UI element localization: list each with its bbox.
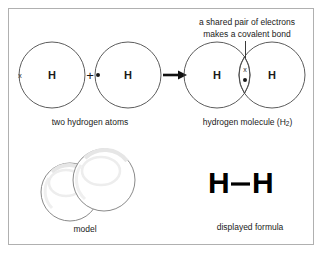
reactant-atom-right-electron-dot-icon: [96, 73, 100, 77]
displayed-formula-caption: displayed formula: [190, 222, 310, 233]
shared-pair-electron-cross-icon: x: [241, 66, 249, 73]
plus-sign: +: [84, 69, 96, 82]
reactants-caption: two hydrogen atoms: [20, 117, 160, 128]
displayed-formula-left-atom: H: [208, 168, 231, 198]
reactant-atom-right-label: H: [118, 70, 138, 81]
chemistry-diagram-figure: H x + H two hydrogen atoms H H x a share…: [0, 0, 324, 255]
covalent-bond-annotation-line2: makes a covalent bond: [178, 29, 316, 40]
reactant-atom-left-label: H: [42, 70, 62, 81]
displayed-formula-right-atom: H: [252, 168, 275, 198]
product-caption-prefix: hydrogen molecule (H: [203, 117, 286, 127]
product-caption-suffix: ): [289, 117, 292, 127]
model-caption: model: [30, 224, 140, 235]
product-caption: hydrogen molecule (H2): [180, 117, 315, 129]
product-atom-right-label: H: [262, 70, 282, 81]
product-atom-left-label: H: [207, 70, 227, 81]
shared-pair-electron-dot-icon: [243, 78, 247, 82]
annotation-leader-line: [245, 41, 246, 58]
reactant-atom-left-electron-cross-icon: x: [16, 72, 24, 79]
covalent-bond-annotation-line1: a shared pair of electrons: [178, 17, 316, 28]
